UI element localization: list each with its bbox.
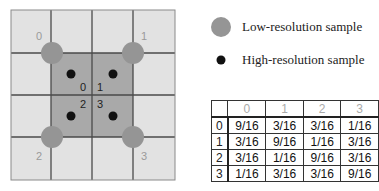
high-res-label-1: 1 [97,81,103,93]
table-row: 0 9/16 3/16 3/16 1/16 [212,117,379,134]
high-res-label-3: 3 [97,98,103,110]
table-header-row: 0 1 2 3 [212,101,379,118]
low-res-label-0: 0 [36,30,42,42]
table-cell: 1/16 [341,117,379,134]
low-res-sample-2 [41,126,63,148]
low-res-sample-3 [122,126,144,148]
table-cell: 3/16 [228,150,266,166]
row-header: 1 [212,134,228,150]
weights-table: 0 1 2 3 0 9/16 3/16 3/16 1/16 1 3/16 9/1… [211,100,379,182]
low-res-label-3: 3 [141,150,147,162]
table-cell: 9/16 [303,150,341,166]
row-header: 2 [212,150,228,166]
low-res-label-2: 2 [36,150,42,162]
row-header: 3 [212,166,228,182]
table-cell: 3/16 [228,134,266,150]
legend-high-res-label: High-resolution sample [242,52,364,68]
column-header: 3 [341,101,379,118]
high-res-sample-2 [67,112,76,121]
table-cell: 3/16 [303,117,341,134]
low-res-label-1: 1 [141,30,147,42]
table-cell: 3/16 [303,166,341,182]
table-corner-cell [212,101,228,118]
table-cell: 9/16 [341,166,379,182]
low-res-sample-0 [41,42,63,64]
column-header: 2 [303,101,341,118]
low-res-sample-1 [122,42,144,64]
high-res-sample-1 [109,70,118,79]
black-dot-icon [217,56,226,65]
column-header: 1 [266,101,304,118]
high-res-sample-0 [67,70,76,79]
table-row: 1 3/16 9/16 1/16 3/16 [212,134,379,150]
table-cell: 1/16 [266,150,304,166]
table-cell: 1/16 [228,166,266,182]
table-cell: 3/16 [341,134,379,150]
table-cell: 3/16 [266,166,304,182]
table-cell: 3/16 [266,117,304,134]
table-cell: 1/16 [303,134,341,150]
table-row: 2 3/16 1/16 9/16 3/16 [212,150,379,166]
table-cell: 9/16 [228,117,266,134]
table-cell: 9/16 [266,134,304,150]
table-cell: 3/16 [341,150,379,166]
high-res-sample-3 [109,112,118,121]
table-row: 3 1/16 3/16 3/16 9/16 [212,166,379,182]
high-res-label-0: 0 [80,81,86,93]
column-header: 0 [228,101,266,118]
high-res-label-2: 2 [80,98,86,110]
legend-low-res-label: Low-resolution sample [242,19,362,35]
row-header: 0 [212,117,228,134]
gray-circle-icon [211,17,231,37]
